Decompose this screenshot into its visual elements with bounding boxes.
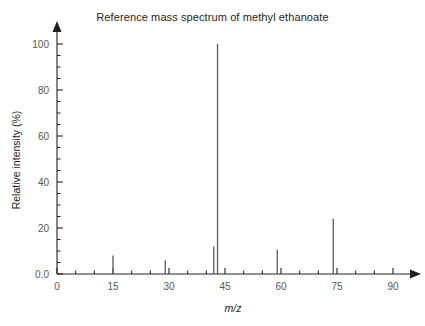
y-tick-label: 40 <box>38 177 50 188</box>
y-axis-arrow-icon <box>53 21 62 32</box>
x-tick-label: 90 <box>387 281 399 292</box>
y-axis-title: Relative intensity (%) <box>10 111 22 210</box>
y-tick-label: 20 <box>38 223 50 234</box>
x-axis-arrow-icon <box>410 270 421 279</box>
x-tick-label: 45 <box>219 281 231 292</box>
mass-spectrum-plot: 0153045607590 0.020406080100 m/z Relativ… <box>0 0 425 326</box>
x-tick-label: 60 <box>275 281 287 292</box>
y-tick-label: 80 <box>38 85 50 96</box>
x-tick-label: 30 <box>163 281 175 292</box>
x-tick-label: 15 <box>107 281 119 292</box>
x-axis-title: m/z <box>225 302 243 314</box>
axes-group <box>53 21 422 279</box>
x-axis-ticks: 0153045607590 <box>54 268 399 292</box>
x-tick-label: 75 <box>331 281 343 292</box>
x-tick-label: 0 <box>54 281 60 292</box>
mass-spectrum-figure: Reference mass spectrum of methyl ethano… <box>0 0 425 326</box>
y-axis-ticks: 0.020406080100 <box>32 39 63 280</box>
spectrum-peaks <box>113 44 333 274</box>
y-tick-label: 100 <box>32 39 49 50</box>
y-tick-label: 0.0 <box>35 269 49 280</box>
y-tick-label: 60 <box>38 131 50 142</box>
